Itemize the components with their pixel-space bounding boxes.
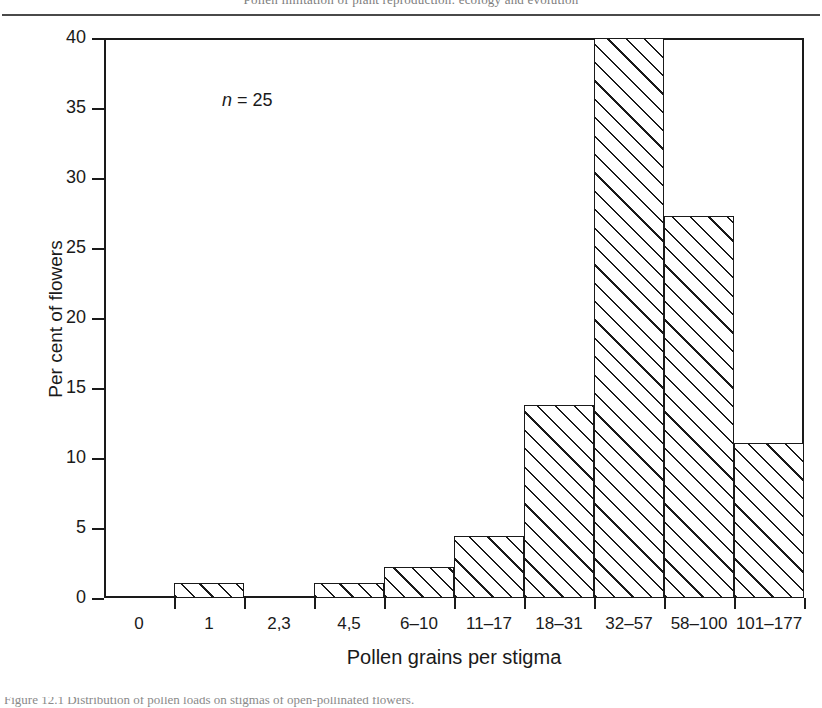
histogram-bar xyxy=(524,405,594,598)
y-axis-tick xyxy=(92,38,104,40)
x-axis-tick xyxy=(244,598,246,609)
y-axis-tick-label: 20 xyxy=(40,307,86,328)
y-axis-tick xyxy=(92,178,104,180)
header-rule xyxy=(2,14,820,16)
sample-size-symbol: n xyxy=(222,90,232,110)
y-axis-tick xyxy=(92,598,104,600)
x-axis-tick-label: 32–57 xyxy=(605,614,652,634)
histogram-bar xyxy=(734,443,804,598)
x-axis-tick-label: 1 xyxy=(204,614,213,634)
histogram-figure: Per cent of flowers n = 25 Pollen grains… xyxy=(0,18,822,658)
y-axis-tick xyxy=(92,318,104,320)
x-axis-tick-label: 0 xyxy=(134,614,143,634)
y-axis-tick xyxy=(92,528,104,530)
sample-size-value: = 25 xyxy=(232,90,273,110)
x-axis-tick-label: 2,3 xyxy=(267,614,291,634)
x-axis-tick-label: 58–100 xyxy=(671,614,728,634)
x-axis-tick xyxy=(384,598,386,609)
x-axis-tick-label: 4,5 xyxy=(337,614,361,634)
y-axis-tick-label: 15 xyxy=(40,377,86,398)
y-axis-tick-label: 40 xyxy=(40,27,86,48)
histogram-bar xyxy=(174,583,244,598)
x-axis-title: Pollen grains per stigma xyxy=(104,646,804,669)
y-axis-tick-label: 25 xyxy=(40,237,86,258)
x-axis-tick-label: 6–10 xyxy=(400,614,438,634)
histogram-bar xyxy=(454,536,524,598)
x-axis-tick xyxy=(734,598,736,609)
x-axis-tick xyxy=(174,598,176,609)
x-axis-tick xyxy=(454,598,456,609)
y-axis-tick xyxy=(92,248,104,250)
y-axis-tick-label: 35 xyxy=(40,97,86,118)
figure-caption-text: Figure 12.1 Distribution of pollen loads… xyxy=(4,697,414,707)
x-axis-tick xyxy=(804,598,806,609)
histogram-bar xyxy=(384,567,454,598)
y-axis-tick-label: 10 xyxy=(40,447,86,468)
x-axis-tick xyxy=(314,598,316,609)
y-axis-tick xyxy=(92,458,104,460)
page-running-header-text: Pollen limitation of plant reproduction:… xyxy=(244,0,579,7)
figure-caption: Figure 12.1 Distribution of pollen loads… xyxy=(0,697,822,708)
y-axis-tick-label: 0 xyxy=(40,587,86,608)
histogram-bar xyxy=(314,583,384,598)
y-axis-tick-label: 5 xyxy=(40,517,86,538)
page-running-header: Pollen limitation of plant reproduction:… xyxy=(0,0,822,9)
histogram-bar xyxy=(594,38,664,598)
x-axis-tick xyxy=(594,598,596,609)
x-axis-tick xyxy=(664,598,666,609)
bar-series xyxy=(104,38,804,598)
x-axis-tick-label: 11–17 xyxy=(466,614,512,634)
y-axis-tick xyxy=(92,388,104,390)
y-axis-tick xyxy=(92,108,104,110)
x-axis-tick-label: 18–31 xyxy=(535,614,582,634)
x-axis-tick xyxy=(524,598,526,609)
x-axis-tick-label: 101–177 xyxy=(736,614,802,634)
y-axis-tick-label: 30 xyxy=(40,167,86,188)
histogram-bar xyxy=(664,216,734,598)
sample-size-annotation: n = 25 xyxy=(222,90,273,111)
